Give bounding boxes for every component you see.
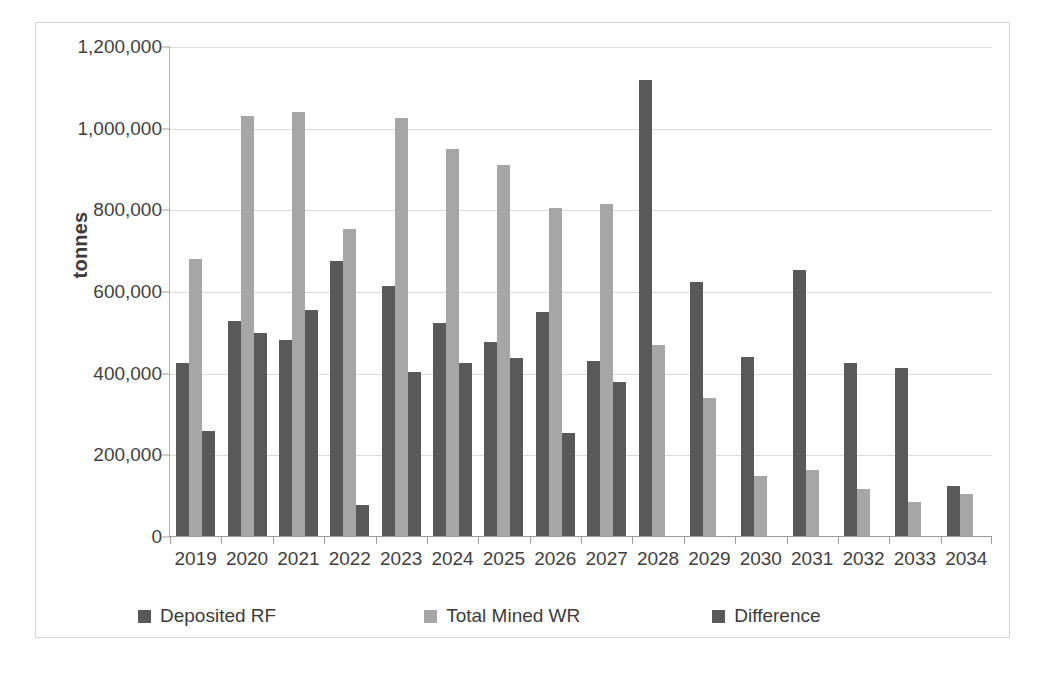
bar[interactable] [459,363,472,537]
bar[interactable] [793,270,806,537]
x-axis-tick-label: 2022 [324,548,375,578]
bar[interactable] [549,208,562,537]
bar[interactable] [857,489,870,537]
x-axis-tickmarks [170,537,992,544]
bar[interactable] [536,312,549,537]
x-axis-tickmark [889,537,940,544]
y-axis-tick-label: 600,000 [52,281,162,303]
x-axis-tick-labels: 2019202020212022202320242025202620272028… [170,548,992,578]
bar[interactable] [497,165,510,537]
x-axis-tick-label: 2027 [581,548,632,578]
bar-group [376,47,427,537]
bar[interactable] [587,361,600,537]
legend-swatch-icon [424,610,437,623]
bar[interactable] [844,363,857,537]
x-axis-tick-label: 2026 [530,548,581,578]
bar-group [941,47,992,537]
y-axis-tickmark [162,210,170,211]
bar[interactable] [754,476,767,537]
y-axis-tick-label: 800,000 [52,199,162,221]
bar-groups [170,47,992,537]
bar[interactable] [228,321,241,537]
bar[interactable] [652,345,665,537]
bar[interactable] [382,286,395,537]
bar[interactable] [639,80,652,537]
bar[interactable] [254,333,267,537]
x-axis-tick-label: 2023 [376,548,427,578]
y-axis-tick-label: 400,000 [52,363,162,385]
chart-legend: Deposited RFTotal Mined WRDifference [120,600,920,632]
bar-group [632,47,683,537]
x-axis-tick-label: 2029 [684,548,735,578]
x-axis-tick-label: 2025 [478,548,529,578]
bar-group [427,47,478,537]
legend-item[interactable]: Difference [712,605,820,627]
y-axis-tickmark [162,292,170,293]
bar[interactable] [703,398,716,537]
y-axis-tick-labels: 0200,000400,000600,000800,0001,000,0001,… [52,36,162,560]
x-axis-tickmark [376,537,427,544]
y-axis-tickmark [162,455,170,456]
bar[interactable] [189,259,202,537]
bar-group [787,47,838,537]
bar-group [478,47,529,537]
bar[interactable] [330,261,343,537]
bar[interactable] [292,112,305,537]
bar[interactable] [947,486,960,537]
x-axis-tick-label: 2020 [221,548,272,578]
x-axis-tickmark [530,537,581,544]
bar[interactable] [613,382,626,537]
x-axis-tick-label: 2030 [735,548,786,578]
bar[interactable] [343,229,356,537]
bar[interactable] [356,505,369,537]
bar[interactable] [433,323,446,537]
x-axis-tickmark [273,537,324,544]
y-axis-tickmark [162,128,170,129]
legend-swatch-icon [138,610,151,623]
bar[interactable] [741,357,754,537]
x-axis-tickmark [787,537,838,544]
bar[interactable] [908,502,921,537]
bar[interactable] [960,494,973,537]
x-axis-tick-label: 2033 [889,548,940,578]
y-axis-tick-label: 1,000,000 [52,118,162,140]
bar[interactable] [446,149,459,537]
x-axis-tickmark [324,537,375,544]
bar-group [221,47,272,537]
bar[interactable] [408,372,421,537]
bar-group [889,47,940,537]
bar[interactable] [279,340,292,537]
x-axis-tickmark [581,537,632,544]
bar[interactable] [176,363,189,537]
bar[interactable] [895,368,908,537]
bar[interactable] [806,470,819,537]
legend-label: Difference [734,605,820,627]
bar-group [581,47,632,537]
x-axis-tickmark [838,537,889,544]
x-axis-tickmark [221,537,272,544]
chart-page: tonnes 0200,000400,000600,000800,0001,00… [0,0,1044,674]
legend-item[interactable]: Deposited RF [138,605,276,627]
x-axis-tickmark [941,537,992,544]
x-axis-tickmark [427,537,478,544]
bar[interactable] [484,342,497,537]
bar-group [273,47,324,537]
bar[interactable] [305,310,318,537]
y-axis-tickmark [162,373,170,374]
bar-group [170,47,221,537]
bar[interactable] [562,433,575,537]
y-axis-tickmark [162,537,170,538]
bar[interactable] [395,118,408,537]
legend-label: Deposited RF [160,605,276,627]
y-axis-tick-label: 0 [52,526,162,548]
bar[interactable] [510,358,523,537]
x-axis-tickmark [478,537,529,544]
y-axis-tickmark [162,47,170,48]
bar[interactable] [690,282,703,537]
x-axis-tickmark [632,537,683,544]
bar[interactable] [241,116,254,537]
legend-item[interactable]: Total Mined WR [424,605,580,627]
bar[interactable] [600,204,613,537]
bar[interactable] [202,431,215,537]
bar-group [324,47,375,537]
